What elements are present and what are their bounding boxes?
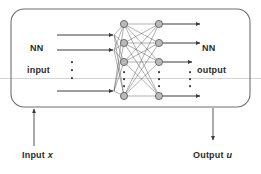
ellipsis-dot (158, 71, 160, 73)
nn-input-label-line2: input (27, 65, 50, 75)
neuron-node (155, 20, 162, 27)
neuron-node (120, 92, 127, 99)
hidden-layer-1-ellipsis (123, 71, 125, 87)
hidden-layer-2-nodes (155, 20, 162, 99)
ellipsis-dot (189, 85, 191, 87)
hidden-layer-2-ellipsis (158, 71, 160, 87)
ellipsis-dot (123, 78, 125, 80)
neuron-node (155, 58, 162, 65)
neuron-node (120, 39, 127, 46)
ellipsis-dot (158, 85, 160, 87)
ellipsis-dot (71, 61, 73, 63)
nn-block-outline (11, 9, 250, 107)
neuron-node (155, 92, 162, 99)
neuron-node (155, 39, 162, 46)
ellipsis-dot (71, 77, 73, 79)
output-signal-label: Output u (193, 150, 232, 160)
hidden-layer-1-nodes (120, 20, 127, 99)
edges-hidden1-to-hidden2 (124, 24, 159, 96)
ellipsis-dot (71, 69, 73, 71)
ellipsis-dot (189, 71, 191, 73)
output-ellipsis-dots (189, 71, 191, 87)
nn-output-arrows (163, 24, 200, 96)
figure-canvas: NN input NN output Input x Output u (0, 0, 261, 174)
nn-output-label-line2: output (197, 65, 226, 75)
ellipsis-dot (123, 85, 125, 87)
ellipsis-dot (158, 78, 160, 80)
ellipsis-dot (123, 71, 125, 73)
neuron-node (120, 58, 127, 65)
input-signal-symbol: x (48, 150, 53, 160)
nn-input-label-line1: NN (30, 43, 43, 53)
input-ellipsis-dots (71, 61, 73, 79)
nn-output-label-line1: NN (202, 43, 215, 53)
output-signal-symbol: u (226, 150, 232, 160)
ellipsis-dot (189, 78, 191, 80)
input-signal-prefix: Input (22, 150, 45, 160)
neuron-node (120, 20, 127, 27)
nn-input-arrows (57, 35, 113, 91)
input-signal-label: Input x (22, 150, 53, 160)
neural-network-diagram (0, 0, 261, 174)
output-signal-prefix: Output (193, 150, 224, 160)
